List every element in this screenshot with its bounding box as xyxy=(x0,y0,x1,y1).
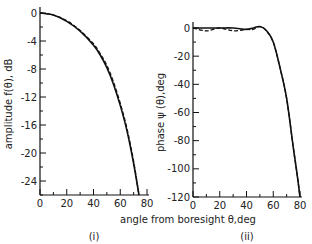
y-tick-label: -40 xyxy=(174,79,190,90)
phase-chart: 0204060800-20-40-60-80-100-120phase ψ (θ… xyxy=(155,22,306,211)
y-tick-label: 0 xyxy=(184,23,190,34)
panel-label-i: (i) xyxy=(89,231,100,242)
x-tick-label: 80 xyxy=(141,198,154,209)
x-tick-label: 0 xyxy=(37,198,43,209)
y-tick-label: -16 xyxy=(21,120,37,131)
x-tick-label: 60 xyxy=(114,198,127,209)
y-tick-label: -120 xyxy=(167,192,190,203)
y-tick-label: -60 xyxy=(174,107,190,118)
x-tick-label: 60 xyxy=(267,200,280,211)
x-tick-label: 40 xyxy=(240,200,253,211)
dashed-curve xyxy=(193,27,300,197)
x-tick-label: 80 xyxy=(294,200,307,211)
y-tick-label: -8 xyxy=(27,64,37,75)
y-tick-label: -24 xyxy=(21,176,37,187)
dashed-curve xyxy=(40,13,139,195)
panel-label-ii: (ii) xyxy=(240,231,253,242)
x-tick-label: 20 xyxy=(60,198,73,209)
y-tick-label: -20 xyxy=(21,148,37,159)
shared-x-axis-title: angle from boresight θ,deg xyxy=(120,214,256,225)
y-axis-title: amplitude f(θ), dB xyxy=(3,59,14,150)
solid-curve xyxy=(193,26,300,197)
chart-figure: 0204060800-4-8-12-16-20-24amplitude f(θ)… xyxy=(0,0,312,244)
y-tick-label: -80 xyxy=(174,135,190,146)
x-tick-label: 20 xyxy=(213,200,226,211)
amplitude-chart: 0204060800-4-8-12-16-20-24amplitude f(θ)… xyxy=(3,7,153,209)
y-axis-title: phase ψ (θ),deg xyxy=(155,73,166,152)
y-tick-label: -4 xyxy=(27,36,37,47)
y-tick-label: -20 xyxy=(174,51,190,62)
y-tick-label: 0 xyxy=(31,8,37,19)
y-tick-label: -12 xyxy=(21,92,37,103)
x-tick-label: 0 xyxy=(190,200,196,211)
y-tick-label: -100 xyxy=(167,163,190,174)
x-tick-label: 40 xyxy=(87,198,100,209)
